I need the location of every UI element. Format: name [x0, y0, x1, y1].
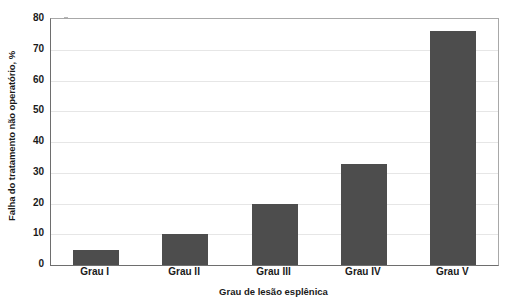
x-axis-tick-labels: Grau IGrau IIGrau IIIGrau IVGrau V [50, 267, 497, 283]
bars-group [51, 19, 498, 265]
x-tick-label-grau-iii: Grau III [256, 267, 290, 277]
x-tick-label-grau-ii: Grau II [168, 267, 200, 277]
bar-grau-v [430, 31, 476, 265]
bar-grau-ii [162, 234, 208, 265]
bar-grau-iv [341, 164, 387, 265]
y-axis-title: Falha do tratamento não operatório, % [4, 4, 18, 268]
bar-grau-iii [252, 204, 298, 266]
y-tick-label-70: 70 [18, 44, 44, 54]
y-tick-label-40: 40 [18, 136, 44, 146]
y-tick-label-80: 80 [18, 13, 44, 23]
x-tick-label-grau-i: Grau I [80, 267, 109, 277]
y-axis-tick-labels: 01020304050607080 [18, 0, 44, 308]
y-tick-label-30: 30 [18, 167, 44, 177]
y-tick-label-0: 0 [18, 259, 44, 269]
y-tick-label-50: 50 [18, 105, 44, 115]
y-tick-label-60: 60 [18, 75, 44, 85]
y-tick-label-10: 10 [18, 228, 44, 238]
x-tick-label-grau-iv: Grau IV [345, 267, 381, 277]
y-tick-label-20: 20 [18, 198, 44, 208]
x-tick-label-grau-v: Grau V [436, 267, 469, 277]
bar-chart: Falha do tratamento não operatório, % 01… [0, 0, 511, 308]
x-axis-title: Grau de lesão esplênica [50, 286, 497, 297]
bar-grau-i [73, 250, 119, 265]
plot-area [50, 18, 499, 266]
